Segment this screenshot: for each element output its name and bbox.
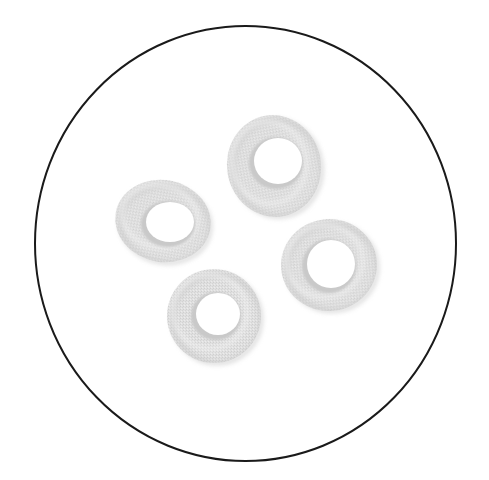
background <box>0 0 489 480</box>
microscope-view <box>0 0 489 480</box>
cell-bottom <box>167 269 261 363</box>
